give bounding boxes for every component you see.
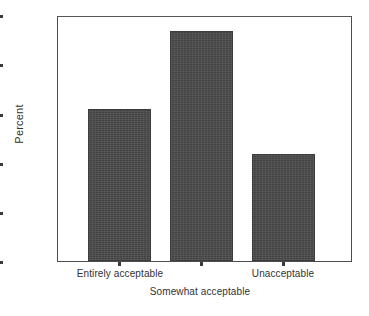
x-tick-label-entirely-acceptable: Entirely acceptable xyxy=(60,268,180,279)
y-tick-mark-0 xyxy=(0,261,3,264)
bar-somewhat-acceptable xyxy=(170,31,233,261)
x-tick-mark-1 xyxy=(200,262,203,266)
y-axis-title: Percent xyxy=(13,64,25,184)
y-tick-mark-1 xyxy=(0,212,3,215)
bar-chart: Percent 0 10 20 30 40 50 Entirely accept… xyxy=(0,0,369,316)
x-tick-label-somewhat-acceptable: Somewhat acceptable xyxy=(140,286,260,297)
plot-area xyxy=(57,16,352,262)
y-tick-mark-4 xyxy=(0,64,3,67)
bar-entirely-acceptable xyxy=(88,109,151,261)
y-tick-mark-5 xyxy=(0,15,3,18)
y-tick-mark-2 xyxy=(0,163,3,166)
x-tick-mark-0 xyxy=(118,262,121,266)
bar-unacceptable xyxy=(252,154,315,261)
x-tick-mark-2 xyxy=(282,262,285,266)
x-tick-label-unacceptable: Unacceptable xyxy=(228,268,338,279)
y-tick-mark-3 xyxy=(0,114,3,117)
